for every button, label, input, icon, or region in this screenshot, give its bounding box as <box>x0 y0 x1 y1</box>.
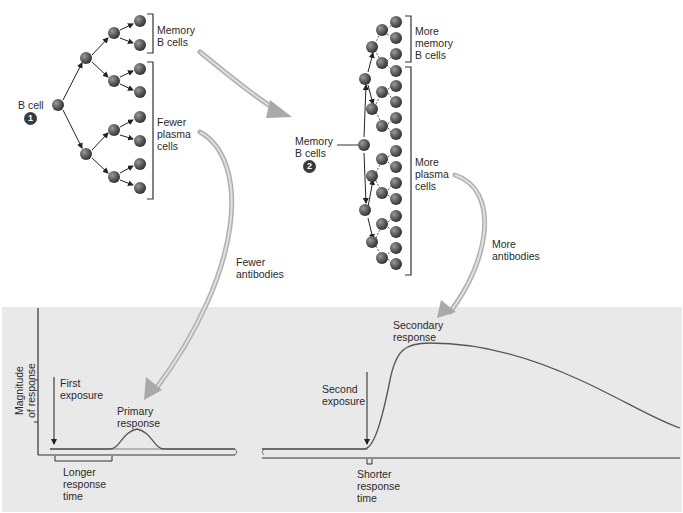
shorter-response-time-label: Shorter response time <box>357 468 400 504</box>
fewer-antibodies-label: Fewer antibodies <box>236 256 284 280</box>
more-plasma-cells-label: More plasma cells <box>415 156 449 192</box>
second-exposure-label: Second exposure <box>322 383 365 407</box>
memory-b-cells-label: Memory B cells <box>157 24 195 48</box>
secondary-tree <box>337 16 411 275</box>
first-exposure-label: First exposure <box>60 377 103 401</box>
step-1-badge: 1 <box>24 112 37 125</box>
diagram-canvas <box>0 0 683 513</box>
memory-b-cells-2-label: Memory B cells <box>295 135 333 159</box>
fewer-plasma-cells-label: Fewer plasma cells <box>157 116 191 152</box>
step-2-badge: 2 <box>303 160 316 173</box>
immune-response-diagram: B cell 1 Memory B cells Fewer plasma cel… <box>0 0 683 513</box>
more-antibodies-label: More antibodies <box>492 238 540 262</box>
primary-response-label: Primary response <box>117 405 160 429</box>
secondary-response-label: Secondary response <box>393 319 443 343</box>
longer-response-time-label: Longer response time <box>63 466 106 502</box>
primary-tree <box>52 14 153 199</box>
b-cell-label: B cell <box>18 99 44 111</box>
y-axis-label: Magnitude of response <box>13 363 37 418</box>
more-memory-b-cells-label: More memory B cells <box>415 25 453 61</box>
